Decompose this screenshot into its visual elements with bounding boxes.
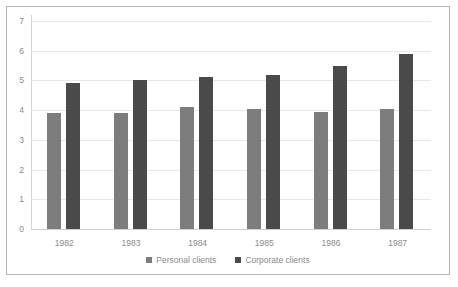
x-axis-tick-label: 1987 — [364, 238, 431, 248]
y-axis-tick-label: 6 — [19, 46, 24, 56]
legend-swatch-icon — [146, 257, 152, 263]
bar-1985-personal[interactable] — [247, 109, 261, 229]
bar-group-1987: 1987 — [364, 21, 431, 229]
bar-group-1984: 1984 — [164, 21, 231, 229]
bars-layer: 198219831984198519861987 — [31, 21, 431, 229]
legend-label: Personal clients — [156, 255, 216, 265]
plot-area: 01234567 198219831984198519861987 — [31, 21, 431, 229]
y-axis-tick-label: 4 — [19, 105, 24, 115]
y-axis-tick-label: 2 — [19, 165, 24, 175]
legend-item[interactable]: Corporate clients — [235, 255, 309, 265]
bar-1987-personal[interactable] — [380, 109, 394, 229]
bar-1986-personal[interactable] — [314, 112, 328, 229]
bar-1983-corporate[interactable] — [133, 80, 147, 229]
x-axis-tick-label: 1985 — [231, 238, 298, 248]
x-axis-tick-label: 1982 — [31, 238, 98, 248]
y-axis-tick-label: 0 — [19, 224, 24, 234]
chart-frame: 01234567 198219831984198519861987 Person… — [6, 6, 450, 275]
bar-1984-personal[interactable] — [180, 107, 194, 229]
legend-label: Corporate clients — [245, 255, 309, 265]
x-axis-tick-label: 1983 — [98, 238, 165, 248]
legend-swatch-icon — [235, 257, 241, 263]
chart-legend: Personal clientsCorporate clients — [7, 255, 449, 265]
bar-group-1985: 1985 — [231, 21, 298, 229]
legend-item[interactable]: Personal clients — [146, 255, 216, 265]
y-axis-tick-label: 1 — [19, 194, 24, 204]
x-axis-tick-label: 1986 — [298, 238, 365, 248]
bar-1987-corporate[interactable] — [399, 54, 413, 229]
bar-1982-personal[interactable] — [47, 113, 61, 229]
bar-1985-corporate[interactable] — [266, 75, 280, 230]
bar-1984-corporate[interactable] — [199, 77, 213, 229]
bar-1983-personal[interactable] — [114, 113, 128, 229]
gridline-0: 0 — [31, 229, 431, 230]
y-axis-tick-label: 7 — [19, 16, 24, 26]
bar-1986-corporate[interactable] — [333, 66, 347, 229]
bar-1982-corporate[interactable] — [66, 83, 80, 229]
x-axis-tick-label: 1984 — [164, 238, 231, 248]
y-axis-tick-label: 5 — [19, 75, 24, 85]
bar-group-1982: 1982 — [31, 21, 98, 229]
bar-group-1986: 1986 — [298, 21, 365, 229]
bar-group-1983: 1983 — [98, 21, 165, 229]
y-axis-tick-label: 3 — [19, 135, 24, 145]
